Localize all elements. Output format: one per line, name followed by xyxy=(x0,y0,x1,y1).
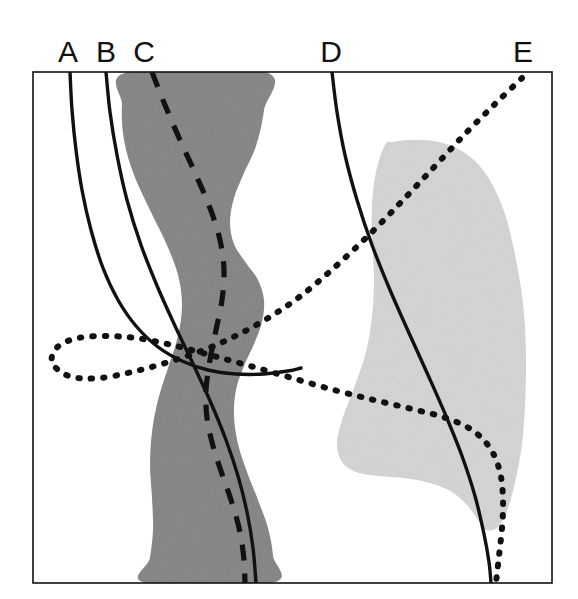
curve-label-c: C xyxy=(133,35,155,68)
figure-stage: ABCDE xyxy=(0,0,578,599)
curve-label-group: ABCDE xyxy=(58,35,533,68)
curve-label-b: B xyxy=(96,35,116,68)
curve-label-e: E xyxy=(513,35,533,68)
curve-label-d: D xyxy=(320,35,342,68)
light-gray-band xyxy=(337,140,526,531)
curve-diagram: ABCDE xyxy=(0,0,578,599)
curve-label-a: A xyxy=(58,35,78,68)
